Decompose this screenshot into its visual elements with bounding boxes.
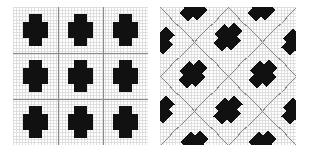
rotated-lattice-svg (160, 7, 296, 145)
aligned-lattice-panel (13, 7, 148, 145)
rotated-panel-render (160, 7, 296, 145)
figure-canvas (0, 0, 310, 153)
aligned-panel-render (13, 7, 148, 145)
aligned-lattice-svg (13, 7, 148, 145)
rotated-lattice-panel (160, 7, 296, 145)
